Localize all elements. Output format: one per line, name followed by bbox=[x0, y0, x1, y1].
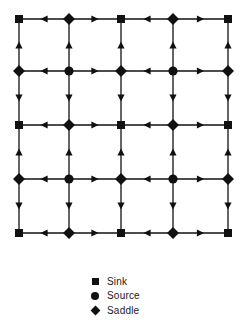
legend-item-source: Source bbox=[88, 289, 140, 304]
source-node-circle-icon bbox=[64, 174, 73, 183]
sink-node-square-icon bbox=[117, 121, 125, 129]
arrow-left-icon bbox=[143, 15, 150, 22]
arrow-up-icon bbox=[224, 41, 231, 48]
vector-field-grid-diagram bbox=[0, 0, 242, 260]
saddle-node-diamond-icon bbox=[167, 227, 179, 239]
arrow-left-icon bbox=[143, 67, 150, 74]
arrow-up-icon bbox=[117, 41, 124, 48]
arrow-right-icon bbox=[197, 15, 204, 22]
legend-item-sink: Sink bbox=[88, 274, 140, 289]
arrow-up-icon bbox=[169, 148, 176, 155]
arrow-right-icon bbox=[91, 67, 98, 74]
legend-label: Sink bbox=[107, 276, 127, 287]
arrow-right-icon bbox=[91, 121, 98, 128]
saddle-node-diamond-icon bbox=[222, 65, 234, 77]
arrow-left-icon bbox=[40, 121, 47, 128]
sink-node-square-icon bbox=[117, 15, 125, 23]
arrow-up-icon bbox=[15, 148, 22, 155]
arrow-right-icon bbox=[91, 175, 98, 182]
arrow-up-icon bbox=[169, 41, 176, 48]
legend-item-saddle: Saddle bbox=[88, 303, 140, 318]
sink-node-square-icon bbox=[117, 229, 125, 237]
source-node-circle-icon bbox=[64, 66, 73, 75]
saddle-node-diamond-icon bbox=[167, 119, 179, 131]
arrow-down-icon bbox=[65, 94, 72, 101]
legend-label: Saddle bbox=[107, 305, 139, 316]
arrow-right-icon bbox=[197, 175, 204, 182]
arrow-down-icon bbox=[65, 202, 72, 209]
arrow-right-icon bbox=[197, 121, 204, 128]
sink-node-square-icon bbox=[15, 15, 23, 23]
source-node-circle-icon bbox=[168, 66, 177, 75]
arrow-left-icon bbox=[143, 229, 150, 236]
saddle-node-diamond-icon bbox=[63, 227, 75, 239]
saddle-node-diamond-icon bbox=[63, 119, 75, 131]
saddle-node-diamond-icon bbox=[115, 173, 127, 185]
arrow-down-icon bbox=[169, 202, 176, 209]
sink-node-square-icon bbox=[224, 229, 232, 237]
arrow-down-icon bbox=[169, 94, 176, 101]
arrow-right-icon bbox=[197, 67, 204, 74]
sink-node-square-icon bbox=[15, 229, 23, 237]
arrow-up-icon bbox=[224, 148, 231, 155]
arrow-up-icon bbox=[65, 41, 72, 48]
arrow-down-icon bbox=[15, 202, 22, 209]
legend-label: Source bbox=[107, 290, 140, 301]
arrow-left-icon bbox=[143, 175, 150, 182]
sink-node-square-icon bbox=[15, 121, 23, 129]
saddle-node-diamond-icon bbox=[222, 173, 234, 185]
arrow-right-icon bbox=[197, 229, 204, 236]
saddle-node-diamond-icon bbox=[13, 173, 25, 185]
saddle-node-diamond-icon bbox=[115, 65, 127, 77]
arrow-up-icon bbox=[65, 148, 72, 155]
arrow-down-icon bbox=[117, 94, 124, 101]
arrow-up-icon bbox=[117, 148, 124, 155]
arrow-left-icon bbox=[143, 121, 150, 128]
circle-icon bbox=[88, 289, 102, 303]
arrow-down-icon bbox=[117, 202, 124, 209]
arrow-down-icon bbox=[15, 94, 22, 101]
saddle-node-diamond-icon bbox=[13, 65, 25, 77]
arrow-right-icon bbox=[91, 229, 98, 236]
arrow-left-icon bbox=[40, 15, 47, 22]
saddle-node-diamond-icon bbox=[167, 13, 179, 25]
arrow-right-icon bbox=[91, 15, 98, 22]
arrow-left-icon bbox=[40, 229, 47, 236]
source-node-circle-icon bbox=[168, 174, 177, 183]
diamond-icon bbox=[88, 303, 102, 317]
arrow-left-icon bbox=[40, 67, 47, 74]
saddle-node-diamond-icon bbox=[63, 13, 75, 25]
arrow-down-icon bbox=[224, 94, 231, 101]
square-icon bbox=[88, 274, 102, 288]
legend: Sink Source Saddle bbox=[88, 274, 140, 318]
arrow-down-icon bbox=[224, 202, 231, 209]
sink-node-square-icon bbox=[224, 15, 232, 23]
arrow-left-icon bbox=[40, 175, 47, 182]
arrow-up-icon bbox=[15, 41, 22, 48]
sink-node-square-icon bbox=[224, 121, 232, 129]
